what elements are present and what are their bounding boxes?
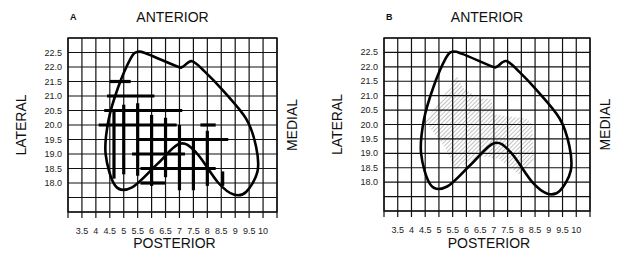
y-tick: 21.5	[44, 77, 62, 87]
y-tick: 22.5	[360, 47, 378, 57]
x-tick: 9	[546, 225, 551, 235]
x-tick: 5	[436, 225, 441, 235]
x-tick: 8.5	[529, 225, 542, 235]
x-tick: 6	[149, 226, 154, 236]
lateral-label: LATERAL	[329, 94, 345, 155]
x-tick: 8.5	[215, 226, 228, 236]
diagram-canvas: AANTERIORPOSTERIORLATERALMEDIAL22.522.02…	[0, 0, 620, 262]
x-tick: 9.5	[243, 226, 256, 236]
y-tick: 21.5	[360, 76, 378, 86]
x-tick: 10	[258, 226, 268, 236]
x-tick: 7	[177, 226, 182, 236]
y-tick: 18.0	[360, 177, 378, 187]
y-tick: 19.0	[44, 149, 62, 159]
figure: AANTERIORPOSTERIORLATERALMEDIAL22.522.02…	[0, 0, 620, 262]
x-tick: 7	[491, 225, 496, 235]
x-tick: 6.5	[159, 226, 172, 236]
y-tick: 20.0	[360, 120, 378, 130]
posterior-label: POSTERIOR	[133, 235, 215, 251]
x-tick: 6.5	[474, 225, 487, 235]
y-tick: 19.5	[360, 134, 378, 144]
posterior-label: POSTERIOR	[448, 235, 530, 251]
x-tick: 5.5	[131, 226, 144, 236]
x-tick: 5.5	[446, 225, 459, 235]
anterior-label: ANTERIOR	[136, 9, 208, 25]
y-tick: 18.0	[44, 178, 62, 188]
y-tick: 21.0	[360, 91, 378, 101]
x-tick: 4.5	[419, 225, 432, 235]
y-tick: 20.5	[44, 106, 62, 116]
x-tick: 6	[464, 225, 469, 235]
x-tick: 9	[233, 226, 238, 236]
panel-b: BANTERIORPOSTERIORLATERALMEDIAL22.522.02…	[329, 9, 613, 251]
x-tick: 8	[519, 225, 524, 235]
panel-a: AANTERIORPOSTERIORLATERALMEDIAL22.522.02…	[13, 9, 300, 251]
x-tick: 4.5	[104, 226, 117, 236]
lateral-label: LATERAL	[13, 94, 29, 155]
y-tick: 18.5	[360, 163, 378, 173]
y-tick: 22.5	[44, 48, 62, 58]
x-tick: 5	[121, 226, 126, 236]
y-tick: 20.5	[360, 105, 378, 115]
x-tick: 4	[409, 225, 414, 235]
y-tick: 21.0	[44, 91, 62, 101]
x-tick: 7.5	[501, 225, 514, 235]
x-tick: 9.5	[556, 225, 569, 235]
x-tick: 3.5	[76, 226, 89, 236]
anterior-label: ANTERIOR	[451, 9, 523, 25]
panel-letter: B	[386, 12, 393, 22]
x-tick: 4	[93, 226, 98, 236]
medial-label: MEDIAL	[597, 98, 613, 150]
medial-label: MEDIAL	[284, 99, 300, 151]
y-tick: 22.0	[44, 62, 62, 72]
x-tick: 8	[205, 226, 210, 236]
y-tick: 20.0	[44, 120, 62, 130]
y-tick: 18.5	[44, 164, 62, 174]
y-tick: 19.5	[44, 135, 62, 145]
y-tick: 19.0	[360, 148, 378, 158]
x-tick: 3.5	[391, 225, 404, 235]
y-tick: 22.0	[360, 62, 378, 72]
x-tick: 10	[571, 225, 581, 235]
panel-letter: A	[70, 12, 77, 22]
x-tick: 7.5	[187, 226, 200, 236]
